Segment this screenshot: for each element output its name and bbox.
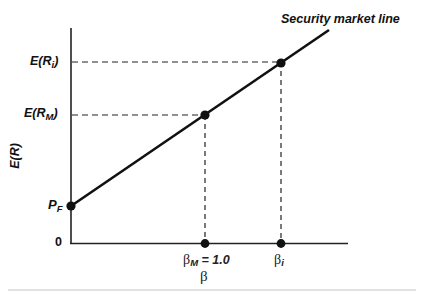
x-tick-bi: βi [274, 250, 284, 268]
x-tick-bm: βM = 1.0 [183, 250, 230, 268]
y-tick-eri: E(Ri) [30, 54, 58, 70]
y-tick-pf: PF [48, 197, 62, 214]
bottom-divider [8, 289, 416, 291]
y-tick-erm: E(RM) [24, 106, 58, 122]
y-axis-title: E(R) [8, 143, 22, 169]
origin-label: 0 [55, 235, 62, 249]
point-pf [66, 201, 75, 210]
point-asset-i [276, 58, 285, 67]
x-axis-title: β [200, 268, 208, 285]
point-market [200, 110, 209, 119]
sml-label: Security market line [281, 12, 400, 26]
point-bi-axis [277, 239, 286, 248]
point-bm-axis [201, 239, 210, 248]
security-market-line [71, 30, 329, 206]
